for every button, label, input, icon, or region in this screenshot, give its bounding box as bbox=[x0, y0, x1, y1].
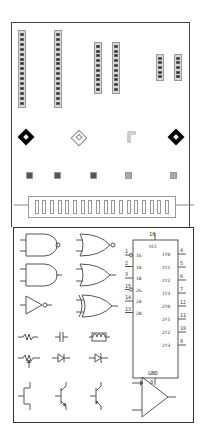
pnp-transistor-icon bbox=[90, 382, 101, 410]
zener-diode-icon bbox=[89, 353, 108, 363]
npn-transistor-icon bbox=[55, 382, 66, 410]
ic-right-pin-number: 7 bbox=[180, 286, 183, 292]
ic-left-pin-number: 3 bbox=[125, 271, 128, 277]
not-gate-icon bbox=[20, 296, 52, 314]
and-gate-icon bbox=[20, 264, 62, 286]
resistor-icon bbox=[18, 334, 38, 340]
ic-right-pin-number: 10 bbox=[180, 325, 186, 331]
nor-gate-icon bbox=[76, 234, 115, 256]
vcc-label: VCC bbox=[149, 244, 157, 249]
inductor-icon bbox=[89, 333, 110, 341]
ic-left-pin-number: 1 bbox=[125, 248, 128, 254]
ic-left-pin-label: 2A bbox=[136, 299, 142, 304]
ic-chip-body bbox=[133, 240, 178, 378]
jfet-icon bbox=[18, 382, 30, 410]
ic-right-pin-label: 2Y1 bbox=[162, 317, 170, 322]
schematic-symbols: 11G21A31B152G142A132B41Y051Y161Y271Y3122… bbox=[0, 0, 203, 440]
ic-left-pin-label: 1B bbox=[136, 276, 142, 281]
potentiometer-icon bbox=[18, 355, 40, 368]
ic-left-pin-number: 14 bbox=[125, 294, 131, 300]
ic-right-pin-number: 5 bbox=[180, 260, 183, 266]
ic-left-pin-label: 2G bbox=[136, 288, 142, 293]
ic-right-pin-label: 1Y1 bbox=[162, 265, 170, 270]
ic-right-pin-label: 1Y0 bbox=[162, 252, 170, 257]
ic-right-pin-number: 11 bbox=[180, 312, 186, 318]
xor-gate-icon bbox=[76, 295, 118, 317]
ic-right-pin-number: 4 bbox=[180, 247, 183, 253]
or-gate-icon bbox=[76, 264, 116, 286]
gnd-label: GND bbox=[148, 370, 158, 376]
gnd-pin-number: 8 bbox=[150, 379, 153, 385]
ic-right-pin-number: 9 bbox=[180, 338, 183, 344]
ic-right-pin-label: 2Y2 bbox=[162, 330, 170, 335]
diode-icon bbox=[52, 354, 70, 362]
ic-left-pin-number: 2 bbox=[125, 260, 128, 266]
ic-right-pin-label: 2Y3 bbox=[162, 343, 170, 348]
ic-left-pin-number: 15 bbox=[125, 283, 131, 289]
ic-left-pin-number: 13 bbox=[125, 306, 131, 312]
capacitor-icon bbox=[55, 332, 68, 342]
vcc-pin-number: 16 bbox=[149, 231, 156, 237]
ic-right-pin-label: 1Y3 bbox=[162, 291, 170, 296]
ic-left-pin-label: 2B bbox=[136, 311, 142, 316]
ic-right-pin-label: 2Y0 bbox=[162, 304, 170, 309]
ic-right-pin-label: 1Y2 bbox=[162, 278, 170, 283]
op-amp-icon bbox=[132, 377, 176, 417]
nand-gate-icon bbox=[20, 234, 60, 256]
ic-right-pin-number: 6 bbox=[180, 273, 183, 279]
ic-left-pin-label: 1A bbox=[136, 265, 142, 270]
ic-left-pin-label: 1G bbox=[136, 253, 142, 258]
ic-right-pin-number: 12 bbox=[180, 299, 186, 305]
